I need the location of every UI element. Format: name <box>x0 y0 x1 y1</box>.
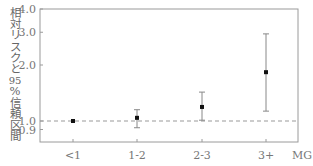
data-point <box>199 92 205 120</box>
y-tick-label: 2.0 <box>19 59 37 72</box>
data-point <box>134 110 140 128</box>
y-axis-ticks: 0.91.02.03.04.0 <box>19 3 44 136</box>
y-tick-label: 1.0 <box>19 115 37 128</box>
x-axis-label: MG <box>292 149 312 162</box>
y-tick-label: 3.0 <box>19 26 37 39</box>
x-tick-label: <1 <box>65 149 81 162</box>
forest-plot: 0.91.02.03.04.0 <11-22-33+ MG <box>0 0 313 166</box>
plot-frame <box>40 9 298 142</box>
x-tick-label: 3+ <box>258 149 274 162</box>
x-tick-label: 2-3 <box>193 149 211 162</box>
data-points <box>71 34 269 128</box>
x-tick-label: 1-2 <box>128 149 146 162</box>
data-point <box>263 34 269 111</box>
y-tick-label: 4.0 <box>19 3 37 16</box>
data-point <box>71 119 75 123</box>
